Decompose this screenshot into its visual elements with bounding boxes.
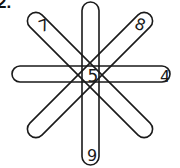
number-upper-left: 7 xyxy=(36,15,52,36)
number-center: 5 xyxy=(88,66,99,86)
number-bottom: 9 xyxy=(87,146,97,165)
number-right: 4 xyxy=(160,67,170,86)
petal-star-diagram: 7 8 4 9 5 xyxy=(0,0,180,168)
